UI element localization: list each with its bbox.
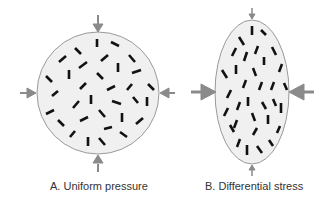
caption-differential-stress: B. Differential stress — [205, 180, 303, 192]
small-arrow-top-icon — [249, 8, 255, 19]
large-arrow-left-icon — [191, 84, 216, 100]
arrow-top-icon — [93, 15, 103, 32]
arrow-bottom-icon — [93, 155, 103, 172]
rock-ellipse — [215, 20, 289, 164]
large-arrow-right-icon — [289, 84, 314, 100]
small-arrow-bottom-icon — [249, 165, 255, 176]
caption-uniform-pressure: A. Uniform pressure — [50, 180, 148, 192]
panel-a-uniform-pressure — [20, 15, 175, 172]
arrow-left-icon — [20, 88, 36, 98]
arrow-right-icon — [160, 88, 175, 98]
panel-b-differential-stress — [191, 8, 314, 176]
diagram-canvas — [0, 0, 331, 197]
